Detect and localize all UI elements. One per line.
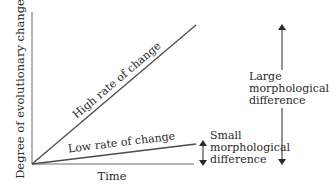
large-difference-label-line3: difference <box>249 94 305 107</box>
high-rate-label: High rate of change <box>70 39 164 121</box>
y-axis-label: Degree of evolutionary change <box>13 0 27 179</box>
low-rate-label: Low rate of change <box>67 130 176 156</box>
small-difference-label-line3: difference <box>210 153 266 166</box>
diagram-canvas: Degree of evolutionary change Time High … <box>0 0 336 190</box>
x-axis-label: Time <box>97 169 126 183</box>
